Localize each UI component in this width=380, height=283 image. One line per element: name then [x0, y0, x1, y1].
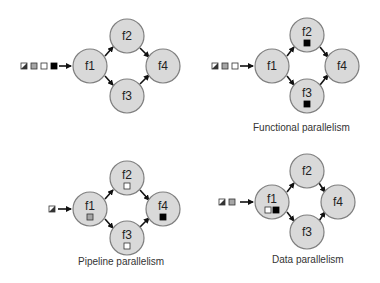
- node-f2: f2: [290, 18, 324, 52]
- token-hatch-icon: [21, 63, 27, 69]
- node-f2: f2: [290, 154, 324, 188]
- token-black-icon: [160, 214, 166, 220]
- diagram-pipeline: f1 f2 f3 f4 Pipeline parallelism: [49, 161, 180, 267]
- svg-text:f2: f2: [122, 29, 132, 43]
- token-white-icon: [41, 63, 47, 69]
- node-f1: f1: [255, 185, 289, 219]
- svg-text:f4: f4: [337, 59, 347, 73]
- caption-functional: Functional parallelism: [253, 122, 350, 133]
- token-white-icon: [124, 183, 130, 189]
- token-white-icon: [265, 207, 271, 213]
- parallelism-diagram: f1 f2 f3 f4 f1 f2 f3 f4 Functional paral…: [0, 0, 380, 283]
- edge-f1-f2: [105, 190, 113, 199]
- edge-f2-f4: [319, 183, 325, 192]
- svg-text:f1: f1: [267, 59, 277, 73]
- node-f4: f4: [325, 49, 359, 83]
- edge-f3-f4: [320, 75, 328, 85]
- edge-f2-f4: [140, 190, 149, 200]
- svg-text:f1: f1: [267, 192, 277, 206]
- token-hatch-icon: [212, 63, 218, 69]
- edge-f1-f2: [287, 47, 294, 56]
- diagram-data: f1 f2 f3 f4 Data parallelism: [219, 154, 355, 265]
- node-f4: f4: [146, 49, 180, 83]
- caption-data: Data parallelism: [272, 254, 344, 265]
- token-black-icon: [51, 63, 57, 69]
- input-queue: [49, 206, 55, 212]
- node-f4: f4: [146, 192, 180, 226]
- token-black-icon: [273, 207, 279, 213]
- node-f3: f3: [110, 221, 144, 255]
- node-f1: f1: [73, 192, 107, 226]
- svg-text:f4: f4: [158, 199, 168, 213]
- diagram-sequential: f1 f2 f3 f4: [21, 19, 180, 113]
- node-f1: f1: [73, 49, 107, 83]
- edge-f1-f2: [287, 183, 294, 192]
- node-f2: f2: [110, 19, 144, 53]
- token-black-icon: [304, 40, 310, 46]
- svg-text:f3: f3: [302, 225, 312, 239]
- token-black-icon: [304, 101, 310, 107]
- node-f2: f2: [110, 161, 144, 195]
- svg-text:f4: f4: [333, 195, 343, 209]
- token-gray-icon: [87, 214, 93, 220]
- svg-text:f2: f2: [122, 168, 132, 182]
- edge-f2-f4: [140, 48, 149, 57]
- input-queue: [219, 199, 235, 205]
- token-gray-icon: [229, 199, 235, 205]
- svg-text:f3: f3: [302, 86, 312, 100]
- edge-f3-f4: [140, 218, 149, 227]
- input-queue: [212, 63, 238, 69]
- node-f3: f3: [290, 79, 324, 113]
- svg-text:f2: f2: [302, 164, 312, 178]
- node-f3: f3: [110, 79, 144, 113]
- edge-f1-f3: [287, 76, 294, 85]
- svg-text:f1: f1: [85, 199, 95, 213]
- node-f3: f3: [290, 215, 324, 249]
- svg-text:f3: f3: [122, 228, 132, 242]
- token-gray-icon: [31, 63, 37, 69]
- edge-f1-f3: [287, 212, 294, 221]
- svg-text:f2: f2: [302, 25, 312, 39]
- token-gray-icon: [222, 63, 228, 69]
- node-f1: f1: [255, 49, 289, 83]
- token-white-icon: [124, 243, 130, 249]
- edge-f3-f4: [319, 212, 325, 221]
- token-hatch-icon: [219, 199, 225, 205]
- svg-text:f4: f4: [158, 59, 168, 73]
- svg-text:f3: f3: [122, 89, 132, 103]
- edge-f1-f2: [105, 47, 113, 56]
- edge-f3-f4: [140, 75, 149, 84]
- token-white-icon: [232, 63, 238, 69]
- token-hatch-icon: [49, 206, 55, 212]
- caption-pipeline: Pipeline parallelism: [78, 256, 164, 267]
- edge-f1-f3: [105, 76, 113, 85]
- diagram-functional: f1 f2 f3 f4 Functional parallelism: [212, 18, 359, 133]
- edge-f1-f3: [105, 219, 113, 228]
- svg-text:f1: f1: [85, 59, 95, 73]
- input-queue: [21, 63, 57, 69]
- node-f4: f4: [321, 185, 355, 219]
- edge-f2-f4: [320, 47, 328, 57]
